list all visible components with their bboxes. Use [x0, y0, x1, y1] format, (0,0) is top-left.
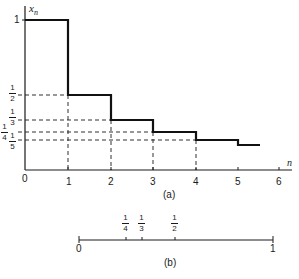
x-tick-label-2: 2: [108, 177, 114, 187]
denominator: 3: [10, 119, 14, 127]
x-tick-label-4: 4: [193, 177, 199, 187]
x-tick-label-0: 0: [22, 174, 28, 184]
y-axis-label: xn: [29, 3, 38, 17]
numerator: 1: [10, 108, 14, 116]
numerator: 1: [123, 214, 127, 222]
y-frac-quarter: 14: [1, 123, 8, 142]
y-axis-subscript: n: [34, 8, 38, 17]
mark-half: 12: [171, 214, 178, 233]
denominator: 3: [139, 225, 143, 233]
denominator: 4: [123, 225, 127, 233]
y-frac-third: 13: [9, 108, 16, 127]
numerator: 1: [2, 123, 6, 131]
x-tick-label-6: 6: [276, 177, 282, 187]
x-axis-label: n: [287, 158, 292, 168]
denominator: 2: [10, 95, 14, 103]
denominator: 4: [2, 134, 6, 142]
y-frac-half: 12: [9, 84, 16, 103]
mark-quarter: 14: [122, 214, 129, 233]
numerator: 1: [172, 214, 176, 222]
denominator: 2: [172, 225, 176, 233]
x-tick-label-5: 5: [235, 177, 241, 187]
y-tick-label-one: 1: [14, 15, 20, 25]
mark-third: 13: [138, 214, 145, 233]
caption-b: (b): [164, 258, 176, 268]
dashed-guides: [18, 95, 238, 170]
numerator: 1: [139, 214, 143, 222]
interval-right-label: 1: [270, 244, 276, 254]
x-tick-label-1: 1: [66, 177, 72, 187]
interval-left-label: 0: [76, 244, 82, 254]
x-tick-label-3: 3: [150, 177, 156, 187]
y-frac-fifth: 15: [9, 132, 16, 151]
step-function: [25, 20, 260, 145]
caption-a: (a): [163, 190, 175, 200]
diagram-canvas: [0, 0, 299, 279]
denominator: 5: [10, 143, 14, 151]
numerator: 1: [10, 132, 14, 140]
numerator: 1: [10, 84, 14, 92]
